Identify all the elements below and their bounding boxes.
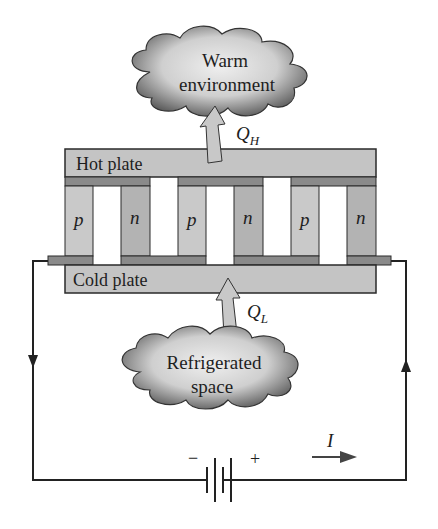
thermoelectric-diagram: − + I Hot plate p n p n p n Cold plat bbox=[0, 0, 438, 529]
current-arrow-down-icon bbox=[28, 355, 38, 368]
warm-cloud-line2: environment bbox=[179, 74, 276, 95]
leg-label-n: n bbox=[130, 207, 140, 228]
battery-plus-label: + bbox=[250, 449, 260, 469]
leg-label-p: p bbox=[298, 209, 310, 230]
hot-plate-label: Hot plate bbox=[76, 154, 142, 174]
leg-label-p: p bbox=[185, 209, 197, 230]
heat-out-label: QH bbox=[236, 123, 260, 148]
semiconductor-legs bbox=[65, 186, 376, 256]
warm-cloud-line1: Warm bbox=[202, 50, 248, 71]
warm-environment-cloud bbox=[132, 26, 307, 116]
leg-label-n: n bbox=[356, 207, 366, 228]
current-label: I bbox=[326, 430, 335, 451]
top-conductors bbox=[65, 177, 376, 186]
battery-minus-label: − bbox=[188, 448, 198, 468]
current-arrow-up-icon bbox=[401, 359, 411, 372]
cold-cloud-line2: space bbox=[191, 376, 233, 397]
bottom-conductors bbox=[48, 256, 391, 265]
leg-label-p: p bbox=[72, 209, 84, 230]
current-direction-arrow-icon bbox=[312, 451, 357, 463]
heat-in-label: QL bbox=[247, 301, 268, 326]
leg-label-n: n bbox=[243, 207, 253, 228]
cold-plate-label: Cold plate bbox=[73, 270, 148, 290]
cold-cloud-line1: Refrigerated bbox=[167, 352, 262, 373]
